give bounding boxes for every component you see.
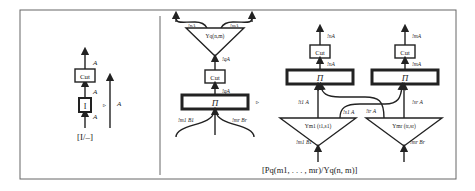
rhs-right-top-wire: !mA: [412, 33, 422, 39]
rhs-left-above-pi-wire: !nA: [327, 61, 336, 67]
upsilon-label-rhs-left: Υm1 (t1,s1): [305, 123, 332, 130]
identity-label: I: [84, 102, 87, 111]
wire-mid-label: A: [92, 88, 98, 96]
rhs-left-cross-wire: !s1 A: [343, 109, 355, 115]
cut-label-rhs-left: Cut: [315, 49, 325, 56]
rhs-right-side-wire: !sr A: [412, 99, 423, 105]
left-panel: I Cut A A A ▹ A [I/–]: [75, 51, 122, 142]
pi-label-rhs-right: Π: [401, 73, 409, 83]
right-rhs-left: !nA Cut !nA Π !t1 A Υm1 (t1,s1) !m1 B1: [280, 28, 356, 162]
rhs-left-side-wire: !t1 A: [298, 99, 309, 105]
rewrite-arrow-left: ▹: [103, 102, 106, 108]
right-lhs: !nA !mA Υq(n,m) !qA Cut !qA Π !m1 B1 !mr…: [176, 15, 254, 137]
rhs-right-cross-wire: !tr A: [366, 108, 377, 114]
upsilon-label-rhs-right: Υmr (tr,sr): [392, 123, 416, 130]
pi-label-rhs-left: Π: [316, 73, 324, 83]
cut-label-lhs: Cut: [210, 74, 220, 81]
wire-bot-label: A: [92, 113, 98, 121]
top-left-wire-label: !nA: [188, 23, 196, 28]
right-caption: [Pq(m1, . . . , mr)/Υq(n, m)]: [262, 165, 358, 175]
above-pi-wire-label: !qA: [222, 88, 231, 94]
in-right-wire-label: !mr Br: [232, 117, 248, 123]
cut-label: Cut: [80, 73, 90, 81]
right-rhs-right: !mA Cut !mA Π !sr A Υmr (tr,sr) !mr Br: [366, 28, 442, 162]
rhs-right-above-pi-wire: !mA: [412, 61, 422, 67]
rewrite-arrow-right: ▹: [256, 99, 259, 105]
below-upsilon-wire-label: !qA: [222, 56, 231, 62]
upsilon-label: Υq(n,m): [206, 33, 225, 40]
cross-wires: !s1 A !tr A: [321, 86, 402, 118]
top-right-wire-label: !mA: [230, 23, 239, 28]
pi-label-lhs: Π: [211, 98, 219, 108]
result-wire-label: A: [116, 100, 122, 108]
in-left-wire-label: !m1 B1: [178, 117, 194, 123]
rhs-left-top-wire: !nA: [327, 33, 336, 39]
left-caption: [I/–]: [77, 132, 93, 142]
wire-top-label: A: [92, 59, 98, 67]
rhs-left-in-wire: !m1 B1: [296, 139, 312, 145]
diagram-canvas: I Cut A A A ▹ A [I/–] !nA !mA Υq(n,m) !q…: [0, 0, 475, 191]
cut-label-rhs-right: Cut: [400, 49, 410, 56]
rhs-right-in-wire: !mr Br: [410, 139, 426, 145]
